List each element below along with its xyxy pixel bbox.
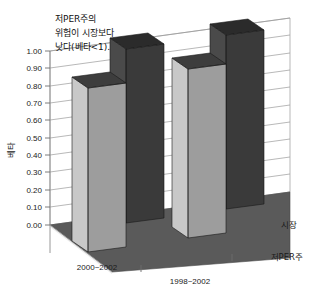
y-tick-label: 0.70 [26,99,42,108]
annotation-line-3: 낮다(베타<1). [55,42,110,52]
bar-front-face [172,58,188,238]
y-tick-label: 0.80 [26,82,42,91]
beta-3d-bar-chart: 1.00 0.90 0.80 0.70 0.60 0.50 0.40 0.30 … [0,0,311,294]
y-tick-label: 0.60 [26,116,42,125]
y-tick-marks [45,51,50,225]
chart-container: 1.00 0.90 0.80 0.70 0.60 0.50 0.40 0.30 … [0,0,311,294]
annotation-line-1: 저PER주의 [55,14,96,24]
y-tick-label: 0.40 [26,151,42,160]
bar-side-face [226,30,264,209]
bar-lowper-1998-2002 [172,53,226,238]
y-tick-label: 0.20 [26,186,42,195]
bar-side-face [188,64,226,238]
x-category-label-1: 1998~2002 [170,277,211,286]
bar-side-face [88,83,126,252]
y-tick-label: 0.50 [26,134,42,143]
y-tick-label: 1.00 [26,47,42,56]
y-tick-label: 0.30 [26,168,42,177]
x-category-label-0: 2000~2002 [77,263,118,272]
bar-front-face [72,77,88,252]
bar-side-face [126,44,164,223]
bar-lowper-2000-2002 [72,72,126,252]
depth-label-market: 시장 [281,220,297,230]
y-tick-label: 0.10 [26,203,42,212]
y-tick-label: 0.00 [26,221,42,230]
annotation-line-2: 위험이 시장보다 [55,28,115,38]
depth-label-lowper: 저PER주 [271,252,303,262]
y-axis-title: 베타 [6,142,16,158]
y-tick-label: 0.90 [26,64,42,73]
